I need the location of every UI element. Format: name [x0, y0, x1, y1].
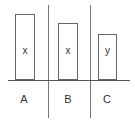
- divider-1: [48, 5, 49, 118]
- bar-a: x: [15, 14, 35, 80]
- bar-b: x: [58, 23, 78, 80]
- column-label-c: C: [97, 93, 117, 105]
- bar-c-label: y: [99, 45, 116, 56]
- bar-b-label: x: [59, 45, 77, 56]
- column-label-a: A: [14, 93, 34, 105]
- column-label-b: B: [58, 93, 78, 105]
- baseline: [8, 80, 130, 81]
- bar-c: y: [98, 34, 117, 80]
- divider-2: [90, 5, 91, 118]
- bar-a-label: x: [16, 45, 34, 56]
